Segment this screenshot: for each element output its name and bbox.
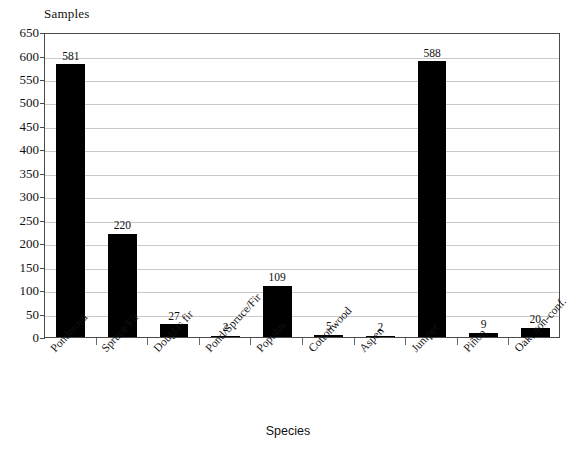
y-tick-label: 550 [20, 72, 40, 88]
y-tick-label: 300 [20, 189, 40, 205]
bar [56, 64, 85, 337]
x-axis-title: Species [0, 424, 576, 438]
y-tick-label: 600 [20, 49, 40, 65]
y-tick-label: 50 [26, 307, 39, 323]
bar-value-label: 109 [269, 271, 286, 283]
bar-chart: Samples 58122027210952588920 05010015020… [0, 0, 576, 450]
y-tick-label: 150 [20, 260, 40, 276]
y-axis-title: Samples [44, 6, 89, 22]
x-axis-labels: PonderosaSpruce/FirDouglas firPond/Spruc… [0, 338, 576, 418]
y-tick-label: 400 [20, 142, 40, 158]
bar-value-label: 588 [423, 47, 440, 59]
bar-value-label: 581 [62, 50, 79, 62]
y-tick-label: 250 [20, 213, 40, 229]
y-tick-label: 500 [20, 95, 40, 111]
y-tick-label: 100 [20, 283, 40, 299]
y-tick-label: 350 [20, 166, 40, 182]
plot-area: 58122027210952588920 [44, 33, 560, 338]
bars-layer: 58122027210952588920 [45, 34, 559, 337]
y-tick-label: 650 [20, 25, 40, 41]
bar-value-label: 220 [114, 219, 131, 231]
y-tick-label: 200 [20, 236, 40, 252]
bar [418, 61, 447, 337]
y-tick-label: 450 [20, 119, 40, 135]
